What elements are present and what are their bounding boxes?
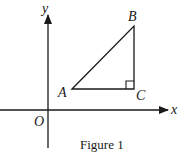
point-c-label: C — [136, 88, 146, 103]
right-angle-marker — [126, 81, 134, 89]
point-a-label: A — [57, 85, 67, 100]
point-b-label: B — [128, 9, 137, 24]
figure-caption: Figure 1 — [80, 137, 124, 152]
y-axis-label: y — [40, 1, 49, 16]
triangle-abc — [72, 26, 134, 89]
figure-diagram: y x O B A C Figure 1 — [0, 0, 183, 158]
x-axis-label: x — [170, 102, 178, 117]
origin-label: O — [34, 114, 44, 129]
